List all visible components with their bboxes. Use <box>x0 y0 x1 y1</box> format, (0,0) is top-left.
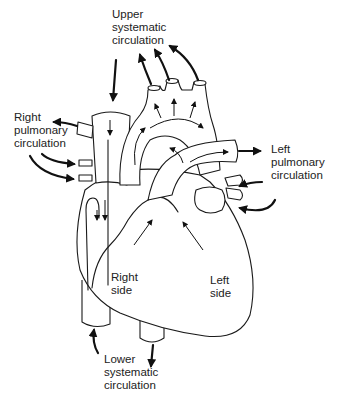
label-right-side: Right side <box>111 271 138 297</box>
right-pulmonary-vessels <box>77 122 93 181</box>
label-upper-systematic-circulation: Upper systematic circulation <box>112 8 166 47</box>
label-right-pulmonary-circulation: Right pulmonary circulation <box>14 111 68 150</box>
label-left-pulmonary-circulation: Left pulmonary circulation <box>271 143 325 182</box>
heart-diagram <box>0 0 338 399</box>
label-lower-systematic-circulation: Lower systematic circulation <box>104 353 158 392</box>
label-left-side: Left side <box>210 274 231 300</box>
